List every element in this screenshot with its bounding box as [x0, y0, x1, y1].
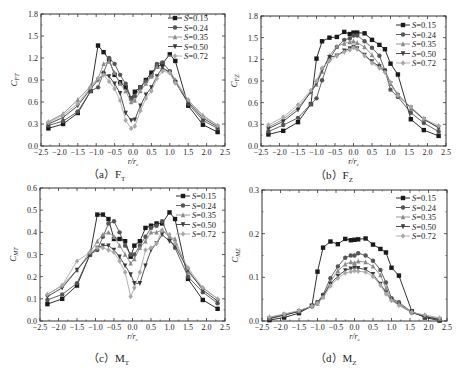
svg-text:−1.5: −1.5 — [292, 323, 307, 332]
svg-text:CFT: CFT — [9, 73, 20, 87]
svg-text:−1.5: −1.5 — [70, 323, 85, 332]
svg-text:−1.0: −1.0 — [89, 148, 104, 157]
svg-text:2.5: 2.5 — [220, 323, 230, 332]
svg-text:1.5: 1.5 — [28, 32, 38, 41]
svg-text:0.9: 0.9 — [28, 76, 38, 85]
svg-text:1.5: 1.5 — [248, 34, 258, 43]
svg-text:2.0: 2.0 — [202, 323, 212, 332]
svg-text:2.5: 2.5 — [442, 323, 452, 332]
svg-text:S=0.35: S=0.35 — [184, 32, 208, 42]
svg-text:0.6: 0.6 — [27, 184, 37, 193]
svg-text:−0.5: −0.5 — [107, 323, 122, 332]
svg-text:CFZ: CFZ — [229, 74, 240, 88]
caption-a: （a）FT — [88, 165, 125, 183]
svg-text:0.3: 0.3 — [249, 186, 259, 195]
svg-text:S=0.50: S=0.50 — [412, 222, 436, 232]
legend-c: S=0.15S=0.24S=0.35S=0.50S=0.72 — [176, 191, 217, 239]
caption-c-text: （c）M — [88, 352, 125, 364]
svg-text:S=0.72: S=0.72 — [412, 231, 436, 241]
svg-text:1.8: 1.8 — [248, 12, 258, 21]
svg-text:0.5: 0.5 — [27, 206, 37, 215]
caption-b: （b）FZ — [315, 166, 353, 184]
caption-b-sub: Z — [349, 176, 353, 184]
svg-text:S=0.35: S=0.35 — [192, 210, 216, 220]
chart-a: −2.5−2.0−1.5−1.0−0.50.00.51.01.52.02.50.… — [9, 10, 230, 167]
svg-text:0.0: 0.0 — [28, 142, 38, 151]
caption-a-sub: T — [121, 175, 125, 183]
svg-text:S=0.50: S=0.50 — [184, 42, 208, 52]
svg-text:0.9: 0.9 — [248, 77, 258, 86]
svg-text:CMT: CMT — [8, 247, 19, 262]
svg-text:r/rc: r/rc — [349, 332, 360, 342]
svg-text:1.8: 1.8 — [28, 10, 38, 19]
svg-text:S=0.15: S=0.15 — [412, 20, 436, 30]
svg-text:S=0.35: S=0.35 — [412, 212, 436, 222]
svg-text:1.5: 1.5 — [404, 148, 414, 157]
svg-text:r/rc: r/rc — [128, 157, 139, 167]
svg-text:1.5: 1.5 — [405, 323, 415, 332]
chart-c: −2.5−2.0−1.5−1.0−0.50.00.51.01.52.02.50.… — [8, 184, 230, 342]
svg-text:0.5: 0.5 — [367, 148, 377, 157]
svg-text:1.2: 1.2 — [28, 54, 38, 63]
svg-text:0.5: 0.5 — [146, 323, 156, 332]
legend-d: S=0.15S=0.24S=0.35S=0.50S=0.72 — [396, 193, 437, 241]
series-S=0.15 — [267, 236, 442, 322]
svg-text:S=0.15: S=0.15 — [192, 191, 216, 201]
svg-text:S=0.35: S=0.35 — [412, 39, 436, 49]
svg-text:−2.0: −2.0 — [51, 323, 66, 332]
svg-text:S=0.50: S=0.50 — [412, 49, 436, 59]
svg-text:0.3: 0.3 — [28, 120, 38, 129]
svg-text:0.5: 0.5 — [146, 148, 156, 157]
caption-a-text: （a）F — [88, 168, 121, 180]
svg-text:S=0.24: S=0.24 — [192, 201, 217, 211]
svg-text:S=0.24: S=0.24 — [412, 203, 437, 213]
svg-text:2.5: 2.5 — [441, 148, 451, 157]
svg-text:0.1: 0.1 — [27, 295, 37, 304]
svg-text:2.5: 2.5 — [220, 148, 230, 157]
svg-text:S=0.24: S=0.24 — [184, 23, 209, 33]
svg-text:0.0: 0.0 — [128, 323, 138, 332]
legend-a: S=0.15S=0.24S=0.35S=0.50S=0.72 — [168, 13, 209, 61]
svg-text:−1.0: −1.0 — [309, 148, 324, 157]
svg-text:0.0: 0.0 — [27, 317, 37, 326]
svg-text:S=0.72: S=0.72 — [192, 229, 216, 239]
chart-b: −2.5−2.0−1.5−1.0−0.50.00.51.01.52.02.50.… — [229, 12, 451, 167]
svg-text:1.5: 1.5 — [183, 148, 193, 157]
svg-text:0.0: 0.0 — [249, 317, 259, 326]
legend-b: S=0.15S=0.24S=0.35S=0.50S=0.72 — [396, 20, 437, 68]
figure: −2.5−2.0−1.5−1.0−0.50.00.51.01.52.02.50.… — [0, 0, 461, 370]
caption-b-text: （b）F — [315, 169, 349, 181]
svg-text:−0.5: −0.5 — [329, 323, 344, 332]
svg-text:−2.0: −2.0 — [272, 148, 287, 157]
svg-text:r/rc: r/rc — [127, 332, 138, 342]
svg-text:1.5: 1.5 — [183, 323, 193, 332]
caption-d: （d）MZ — [315, 349, 357, 367]
svg-text:1.0: 1.0 — [165, 148, 175, 157]
svg-text:1.0: 1.0 — [387, 323, 397, 332]
svg-text:−1.5: −1.5 — [291, 148, 306, 157]
svg-text:CMZ: CMZ — [230, 248, 241, 263]
svg-text:−1.0: −1.0 — [88, 323, 103, 332]
svg-text:0.0: 0.0 — [350, 323, 360, 332]
chart-a-ft: −2.5−2.0−1.5−1.0−0.50.00.51.01.52.02.50.… — [0, 0, 461, 370]
svg-text:−1.0: −1.0 — [310, 323, 325, 332]
svg-text:S=0.72: S=0.72 — [412, 58, 436, 68]
svg-text:0.4: 0.4 — [27, 228, 37, 237]
svg-text:1.2: 1.2 — [248, 55, 258, 64]
svg-text:0.0: 0.0 — [349, 148, 359, 157]
svg-text:0.3: 0.3 — [248, 120, 258, 129]
caption-c-sub: T — [125, 359, 129, 367]
svg-text:2.0: 2.0 — [202, 148, 212, 157]
caption-d-text: （d）M — [315, 352, 352, 364]
svg-text:2.0: 2.0 — [424, 323, 434, 332]
svg-text:S=0.24: S=0.24 — [412, 30, 437, 40]
svg-text:0.6: 0.6 — [28, 98, 38, 107]
svg-text:1.0: 1.0 — [386, 148, 396, 157]
chart-d: −2.5−2.0−1.5−1.0−0.50.00.51.01.52.02.50.… — [230, 186, 452, 342]
svg-text:−0.5: −0.5 — [107, 148, 122, 157]
caption-c: （c）MT — [88, 349, 129, 367]
svg-text:0.6: 0.6 — [248, 99, 258, 108]
svg-text:S=0.15: S=0.15 — [184, 13, 208, 23]
svg-text:2.0: 2.0 — [423, 148, 433, 157]
svg-text:0.5: 0.5 — [368, 323, 378, 332]
